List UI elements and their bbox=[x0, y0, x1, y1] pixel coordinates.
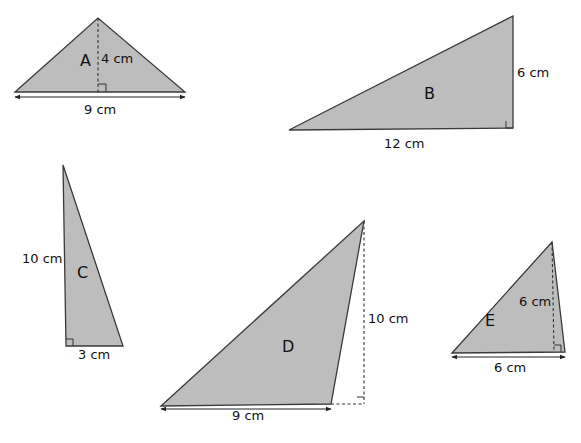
triangle-b-shape bbox=[289, 16, 513, 130]
triangle-a: A4 cm9 cm bbox=[15, 18, 185, 117]
height-measurement: 4 cm bbox=[101, 51, 133, 66]
triangle-label: A bbox=[80, 51, 91, 70]
triangle-d-shape bbox=[161, 221, 364, 406]
base-measurement: 9 cm bbox=[232, 408, 264, 423]
triangle-label: C bbox=[77, 263, 88, 282]
base-measurement: 9 cm bbox=[84, 102, 116, 117]
base-measurement: 3 cm bbox=[78, 347, 110, 362]
triangle-c: C10 cm3 cm bbox=[22, 165, 123, 362]
base-measurement: 6 cm bbox=[494, 360, 526, 375]
triangle-e: E6 cm6 cm bbox=[452, 242, 565, 375]
triangle-a-shape bbox=[15, 18, 185, 92]
triangles-diagram: A4 cm9 cmB6 cm12 cmC10 cm3 cmD10 cm9 cmE… bbox=[0, 0, 581, 443]
triangle-label: D bbox=[282, 337, 294, 356]
triangle-c-shape bbox=[63, 165, 123, 346]
height-measurement: 10 cm bbox=[368, 311, 409, 326]
base-measurement: 12 cm bbox=[384, 136, 425, 151]
height-measurement: 6 cm bbox=[517, 65, 549, 80]
triangle-d: D10 cm9 cm bbox=[161, 221, 409, 423]
triangle-b: B6 cm12 cm bbox=[289, 16, 549, 151]
triangle-label: E bbox=[485, 311, 495, 330]
height-measurement: 10 cm bbox=[22, 251, 63, 266]
height-measurement: 6 cm bbox=[519, 294, 551, 309]
diagram-canvas: A4 cm9 cmB6 cm12 cmC10 cm3 cmD10 cm9 cmE… bbox=[0, 0, 581, 443]
triangle-label: B bbox=[424, 84, 435, 103]
